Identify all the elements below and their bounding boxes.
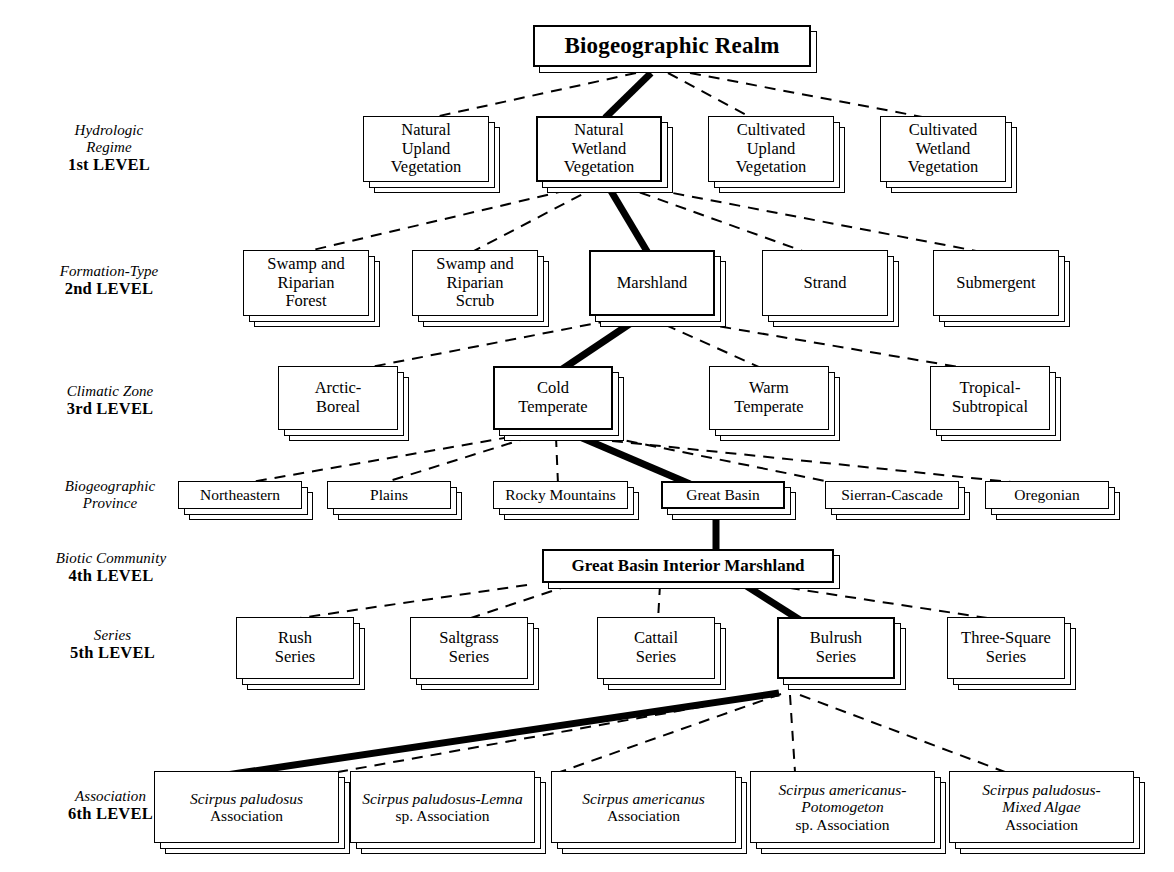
node-label-line1: Natural	[401, 120, 450, 139]
node-label-species: Scirpus paludosus-Lemna	[362, 790, 523, 807]
box-face: Marshland	[589, 250, 715, 316]
node-label-line2: Subtropical	[952, 397, 1028, 416]
box-face: Scirpus americanus- Potomogeton sp. Asso…	[750, 771, 935, 843]
node-label-line3: Scrub	[456, 291, 495, 310]
node-bulrush-series[interactable]: Bulrush Series	[777, 617, 895, 679]
node-assoc-scirpus-paludosus-mixed-algae[interactable]: Scirpus paludosus- Mixed Algae Associati…	[949, 771, 1134, 843]
node-swamp-riparian-scrub[interactable]: Swamp and Riparian Scrub	[412, 250, 538, 316]
node-rush-series[interactable]: Rush Series	[236, 617, 354, 679]
node-cultivated-wetland-vegetation[interactable]: Cultivated Wetland Vegetation	[880, 116, 1006, 182]
node-label-line2: Series	[636, 647, 676, 666]
level-name: Formation-Type	[20, 263, 198, 280]
level-rank: 1st LEVEL	[34, 156, 184, 175]
node-province-rocky-mountains[interactable]: Rocky Mountains	[493, 481, 628, 509]
node-label-line2: Temperate	[518, 397, 587, 416]
node-tropical-subtropical[interactable]: Tropical- Subtropical	[930, 366, 1050, 430]
level-name: Climatic Zone	[25, 383, 195, 400]
node-label-line2: Riparian	[447, 273, 504, 292]
node-label-species: Scirpus paludosus	[190, 790, 303, 807]
node-label-species-2: Mixed Algae	[1002, 798, 1080, 815]
box-face: Submergent	[933, 250, 1059, 316]
node-great-basin-interior-marshland[interactable]: Great Basin Interior Marshland	[542, 549, 834, 583]
node-label-line2: Wetland	[572, 139, 627, 158]
node-label: Marshland	[617, 273, 688, 292]
node-assoc-scirpus-americanus-potomogeton[interactable]: Scirpus americanus- Potomogeton sp. Asso…	[750, 771, 935, 843]
box-face: Bulrush Series	[777, 617, 895, 679]
node-label-line2: Series	[986, 647, 1026, 666]
node-province-northeastern[interactable]: Northeastern	[178, 481, 302, 509]
box-face: Swamp and Riparian Scrub	[412, 250, 538, 316]
node-label-line2: Series	[449, 647, 489, 666]
node-arctic-boreal[interactable]: Arctic- Boreal	[278, 366, 398, 430]
node-label-line2: Riparian	[278, 273, 335, 292]
node-cattail-series[interactable]: Cattail Series	[597, 617, 715, 679]
node-province-sierran-cascade[interactable]: Sierran-Cascade	[825, 481, 959, 509]
level-label-climatic-zone: Climatic Zone 3rd LEVEL	[25, 383, 195, 419]
box-face: Scirpus americanus Association	[551, 771, 736, 843]
box-face: Swamp and Riparian Forest	[243, 250, 369, 316]
node-biogeographic-realm[interactable]: Biogeographic Realm	[533, 25, 811, 67]
node-label-line1: Arctic-	[315, 378, 362, 397]
node-label-rank: sp. Association	[796, 816, 890, 833]
node-label: Sierran-Cascade	[831, 486, 953, 504]
node-label: Northeastern	[184, 486, 296, 504]
node-label: Plains	[333, 486, 445, 504]
node-cold-temperate[interactable]: Cold Temperate	[493, 366, 613, 430]
node-label-line2: Series	[816, 647, 856, 666]
level-rank: 3rd LEVEL	[25, 400, 195, 419]
node-warm-temperate[interactable]: Warm Temperate	[709, 366, 829, 430]
box-face: Great Basin	[661, 481, 785, 509]
diagram-canvas: Hydrologic Regime 1st LEVEL Formation-Ty…	[0, 0, 1174, 872]
node-label: Rocky Mountains	[499, 486, 622, 504]
level-name: Hydrologic	[34, 122, 184, 139]
node-province-plains[interactable]: Plains	[327, 481, 451, 509]
node-province-oregonian[interactable]: Oregonian	[985, 481, 1109, 509]
node-marshland[interactable]: Marshland	[589, 250, 715, 316]
level-rank: 2nd LEVEL	[20, 280, 198, 299]
node-cultivated-upland-vegetation[interactable]: Cultivated Upland Vegetation	[708, 116, 834, 182]
node-label: Biogeographic Realm	[540, 33, 804, 59]
node-assoc-scirpus-paludosus-lemna[interactable]: Scirpus paludosus-Lemna sp. Association	[350, 771, 535, 843]
box-face: Tropical- Subtropical	[930, 366, 1050, 430]
box-face: Northeastern	[178, 481, 302, 509]
box-face: Scirpus paludosus-Lemna sp. Association	[350, 771, 535, 843]
node-label-rank: Association	[607, 807, 680, 824]
level-rank: 5th LEVEL	[30, 644, 195, 663]
node-natural-wetland-vegetation[interactable]: Natural Wetland Vegetation	[536, 116, 662, 182]
node-assoc-scirpus-americanus[interactable]: Scirpus americanus Association	[551, 771, 736, 843]
level-name: Association	[28, 788, 193, 805]
node-saltgrass-series[interactable]: Saltgrass Series	[410, 617, 528, 679]
level-label-biogeographic-province: Biogeographic Province	[25, 478, 195, 512]
node-label-line3: Vegetation	[908, 157, 979, 176]
box-face: Sierran-Cascade	[825, 481, 959, 509]
node-label-line2: Wetland	[916, 139, 971, 158]
node-label-rank: Association	[210, 807, 283, 824]
node-swamp-riparian-forest[interactable]: Swamp and Riparian Forest	[243, 250, 369, 316]
node-natural-upland-vegetation[interactable]: Natural Upland Vegetation	[363, 116, 489, 182]
node-strand[interactable]: Strand	[762, 250, 888, 316]
node-three-square-series[interactable]: Three-Square Series	[947, 617, 1065, 679]
level-name: Series	[30, 627, 195, 644]
node-label-line1: Tropical-	[960, 378, 1021, 397]
node-label-line1: Cold	[537, 378, 569, 397]
level-name-2: Regime	[34, 139, 184, 156]
level-label-hydrologic-regime: Hydrologic Regime 1st LEVEL	[34, 122, 184, 175]
node-label-line1: Swamp and	[267, 254, 344, 273]
level-rank: 4th LEVEL	[18, 567, 204, 586]
node-label-line1: Natural	[574, 120, 623, 139]
level-label-association: Association 6th LEVEL	[28, 788, 193, 824]
node-label: Oregonian	[991, 486, 1103, 504]
box-face: Cultivated Upland Vegetation	[708, 116, 834, 182]
node-label-line2: Boreal	[316, 397, 360, 416]
level-label-series: Series 5th LEVEL	[30, 627, 195, 663]
node-submergent[interactable]: Submergent	[933, 250, 1059, 316]
node-label-line1: Swamp and	[436, 254, 513, 273]
node-label-species-2: Potomogeton	[801, 798, 884, 815]
node-label-line2: Series	[275, 647, 315, 666]
node-province-great-basin[interactable]: Great Basin	[661, 481, 785, 509]
box-face: Natural Upland Vegetation	[363, 116, 489, 182]
box-face: Plains	[327, 481, 451, 509]
node-label: Great Basin	[668, 486, 778, 504]
level-name-2: Province	[25, 495, 195, 512]
level-rank: 6th LEVEL	[28, 805, 193, 824]
